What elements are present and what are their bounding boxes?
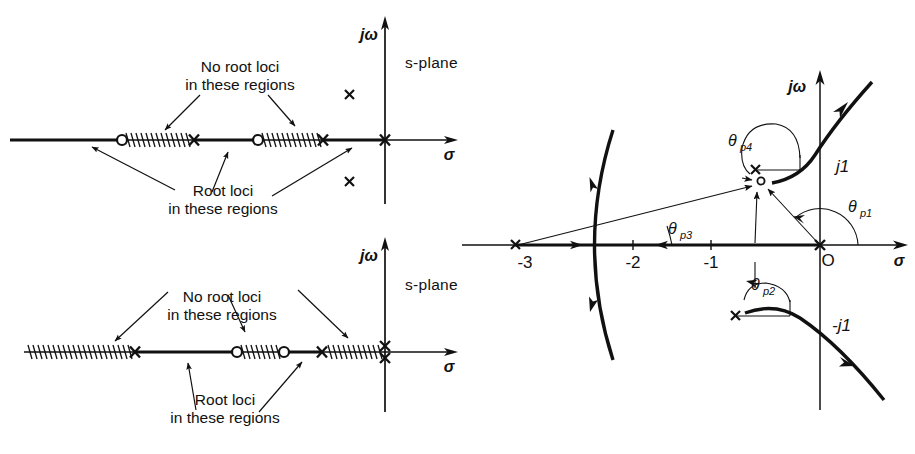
zero-marker: [279, 347, 289, 357]
no-root-loci-label-line1: No root loci: [201, 58, 279, 75]
theta-subscript: p3: [679, 229, 693, 241]
zero-marker: [117, 135, 127, 145]
root-loci-label-line2: in these regions: [168, 200, 278, 217]
theta-subscript: p4: [739, 141, 752, 153]
tick-label-minus-1: -1: [703, 253, 718, 272]
theta-symbol: θ: [668, 220, 677, 237]
origin-label: O: [821, 251, 834, 270]
imaginary-axis-label: jω: [358, 247, 378, 264]
root-loci-label-line1: Root loci: [195, 391, 255, 408]
real-axis-label: σ: [444, 358, 456, 375]
root-loci-label-line2: in these regions: [170, 409, 280, 426]
imaginary-label-j1: j1: [834, 157, 849, 176]
tick-label-minus-3: -3: [517, 253, 532, 272]
imaginary-axis-label: jω: [358, 26, 378, 43]
tick-label-minus-2: -2: [625, 253, 640, 272]
no-root-loci-label-line2: in these regions: [167, 306, 277, 323]
imaginary-axis-label: jω: [786, 78, 806, 95]
root-locus-figure: No root loci in these regions Root loci …: [0, 0, 915, 454]
real-axis-label: σ: [444, 146, 456, 163]
theta-subscript: p1: [859, 207, 872, 219]
real-axis-label: σ: [894, 252, 906, 269]
theta-subscript: p2: [762, 285, 775, 297]
zero-marker: [253, 135, 263, 145]
s-plane-label: s-plane: [405, 276, 458, 293]
no-root-loci-label-line2: in these regions: [185, 76, 295, 93]
test-point-marker: [757, 177, 764, 184]
figure-canvas: No root loci in these regions Root loci …: [0, 0, 915, 454]
theta-symbol: θ: [728, 132, 737, 149]
root-loci-label-line1: Root loci: [193, 182, 253, 199]
s-plane-label: s-plane: [405, 54, 458, 71]
zero-marker: [232, 347, 242, 357]
theta-symbol: θ: [751, 276, 760, 293]
theta-symbol: θ: [848, 198, 857, 215]
no-root-loci-label-line1: No root loci: [183, 288, 261, 305]
imaginary-label-minus-j1: -j1: [832, 316, 851, 335]
